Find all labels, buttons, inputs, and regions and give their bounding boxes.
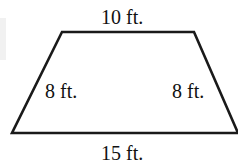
bottom-side-label: 15 ft. (101, 142, 143, 164)
left-side-label: 8 ft. (45, 80, 77, 102)
scan-artifact (0, 18, 6, 60)
right-side-label: 8 ft. (172, 80, 204, 102)
top-side-label: 10 ft. (101, 6, 143, 28)
trapezoid-diagram: 10 ft. 8 ft. 8 ft. 15 ft. (0, 0, 238, 167)
